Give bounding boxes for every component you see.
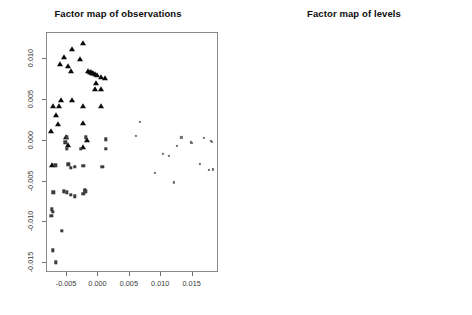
y-axis-tick-label: 0.000	[26, 131, 35, 149]
data-point	[80, 103, 86, 108]
data-point	[53, 113, 59, 118]
data-point	[101, 165, 104, 168]
data-point	[77, 56, 83, 61]
data-point	[176, 145, 178, 147]
data-point	[168, 155, 170, 157]
data-point	[84, 136, 87, 139]
data-point	[173, 181, 175, 183]
data-point	[162, 153, 164, 155]
x-axis-tick-label: -0.005	[56, 279, 77, 288]
data-point	[61, 55, 67, 60]
data-point	[212, 168, 214, 170]
scatter-layer-observations	[47, 33, 217, 271]
x-axis-tick	[192, 272, 193, 276]
data-point	[154, 171, 156, 173]
y-axis-tick	[42, 140, 46, 141]
y-axis-tick-label: 0.010	[26, 49, 35, 67]
panel-levels: Factor map of levels First-time buyersCh…	[236, 0, 472, 315]
data-point	[57, 61, 63, 66]
data-point	[58, 97, 64, 102]
panel-observations: Factor map of observations -0.0050.0000.…	[0, 0, 236, 315]
data-point	[51, 210, 54, 213]
data-point	[73, 195, 76, 198]
data-point	[60, 229, 63, 232]
figure-canvas: Factor map of observations -0.0050.0000.…	[0, 0, 472, 315]
data-point	[80, 40, 86, 45]
data-point	[82, 164, 85, 167]
data-point	[69, 46, 75, 51]
data-point	[139, 121, 141, 123]
y-axis-tick	[42, 262, 46, 263]
data-point	[211, 141, 213, 143]
page-title-levels: Factor map of levels	[236, 8, 472, 19]
y-axis-tick-label: -0.015	[26, 252, 35, 273]
data-point	[53, 164, 56, 167]
data-point	[208, 169, 210, 171]
data-point	[191, 142, 193, 144]
x-axis-tick-label: 0.010	[151, 279, 169, 288]
data-point	[98, 104, 104, 109]
x-axis-tick	[160, 272, 161, 276]
x-axis-tick-label: 0.005	[120, 279, 138, 288]
data-point	[199, 163, 201, 165]
data-point	[52, 190, 55, 193]
data-point	[48, 128, 54, 133]
data-point	[82, 192, 85, 195]
y-axis-tick-label: -0.010	[26, 211, 35, 232]
plot-area-observations	[46, 32, 218, 272]
y-axis-tick-label: -0.005	[26, 170, 35, 191]
data-point	[68, 68, 74, 73]
data-point	[69, 97, 75, 102]
data-point	[79, 147, 82, 150]
x-axis-tick	[129, 272, 130, 276]
data-point	[203, 137, 205, 139]
data-point	[64, 141, 67, 144]
data-point	[50, 214, 53, 217]
data-point	[65, 147, 68, 150]
data-point	[104, 137, 107, 140]
x-axis-tick-label: 0.015	[182, 279, 200, 288]
data-point	[51, 248, 54, 251]
data-point	[56, 103, 62, 108]
y-axis-tick	[42, 221, 46, 222]
data-point	[73, 165, 76, 168]
data-point	[98, 87, 104, 92]
data-point	[180, 136, 182, 138]
page-title: Factor map of observations	[0, 8, 236, 19]
data-point	[55, 121, 61, 126]
data-point	[104, 147, 107, 150]
y-axis-tick	[42, 181, 46, 182]
data-point	[65, 136, 68, 139]
y-axis-tick-label: 0.005	[26, 90, 35, 108]
data-point	[93, 80, 99, 85]
x-axis-tick	[97, 272, 98, 276]
data-point	[102, 75, 108, 80]
data-point	[135, 135, 137, 137]
data-point	[80, 120, 86, 125]
y-axis-tick	[42, 58, 46, 59]
data-point	[54, 261, 57, 264]
x-axis-tick	[66, 272, 67, 276]
y-axis-tick	[42, 99, 46, 100]
x-axis-tick-label: 0.000	[88, 279, 106, 288]
